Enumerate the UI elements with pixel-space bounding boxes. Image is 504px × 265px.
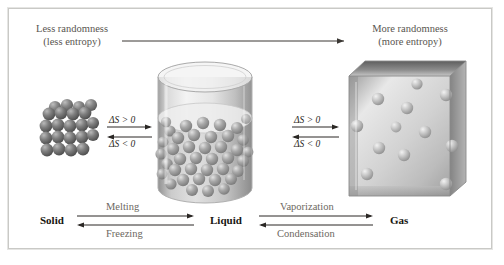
liquid-gas-entropy-arrows <box>292 124 339 139</box>
phase-label-gas: Gas <box>390 214 408 226</box>
gas-container <box>349 61 466 196</box>
delta-s-positive-melting-label: ΔS > 0 <box>109 115 135 125</box>
transition-label-melting: Melting <box>106 201 139 212</box>
less-randomness-label: Less randomness (less entropy) <box>24 22 120 48</box>
more-randomness-label: More randomness (more entropy) <box>356 22 464 48</box>
melting-freezing-arrows <box>77 213 194 227</box>
less-randomness-title: Less randomness <box>24 22 120 35</box>
transition-label-condensation: Condensation <box>277 228 335 239</box>
more-randomness-title: More randomness <box>356 22 464 35</box>
delta-s-negative-freezing-label: ΔS < 0 <box>109 139 135 149</box>
less-entropy-subtitle: (less entropy) <box>24 35 120 48</box>
vaporization-condensation-arrows <box>259 213 373 227</box>
delta-s-negative-condensation-label: ΔS < 0 <box>294 139 320 149</box>
liquid-container <box>155 62 253 203</box>
entropy-increase-arrow <box>122 38 344 44</box>
transition-label-vaporization: Vaporization <box>280 201 334 212</box>
delta-s-positive-vaporization-label: ΔS > 0 <box>294 115 320 125</box>
more-entropy-subtitle: (more entropy) <box>356 35 464 48</box>
solid-particle-lattice <box>40 99 100 157</box>
transition-label-freezing: Freezing <box>106 228 143 239</box>
entropy-phase-diagram: Less randomness (less entropy) More rand… <box>0 0 504 265</box>
phase-label-liquid: Liquid <box>210 214 242 226</box>
solid-liquid-entropy-arrows <box>107 124 152 139</box>
phase-label-solid: Solid <box>40 214 64 226</box>
